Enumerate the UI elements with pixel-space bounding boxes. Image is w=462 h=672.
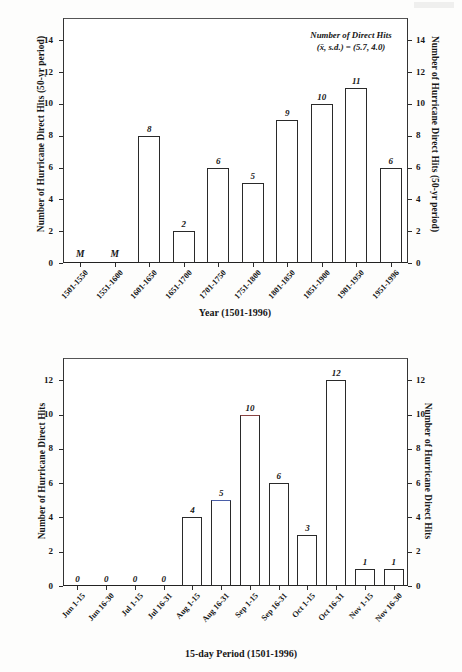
x-tick xyxy=(307,586,308,590)
x-tick xyxy=(279,586,280,590)
y-tick-label-left: 10 xyxy=(31,99,53,108)
y-tick-left xyxy=(59,552,63,553)
y-tick-right xyxy=(408,380,412,381)
x-tick xyxy=(77,586,78,590)
x-tick xyxy=(336,586,337,590)
y-tick-left xyxy=(59,517,63,518)
bar-value-label: 9 xyxy=(270,109,304,118)
y-tick-right xyxy=(408,199,412,200)
bar xyxy=(345,88,367,263)
y-tick-right xyxy=(408,449,412,450)
y-tick-left xyxy=(59,40,63,41)
y-tick-right xyxy=(408,231,412,232)
annotation-line-1: Number of Direct Hits xyxy=(310,30,391,40)
y-tick-left xyxy=(59,380,63,381)
bar xyxy=(207,168,229,263)
plot-area-bottom xyxy=(63,358,408,586)
bar xyxy=(297,535,317,586)
y-tick-label-right: 8 xyxy=(416,131,438,140)
bar-value-label: 2 xyxy=(167,220,201,229)
bar-value-label: 6 xyxy=(262,472,296,481)
missing-data-marker: M xyxy=(63,250,97,260)
y-tick-left xyxy=(59,168,63,169)
bar-value-label: 4 xyxy=(175,506,209,515)
bar xyxy=(269,483,289,586)
y-tick-label-right: 0 xyxy=(416,582,438,591)
bar-value-label: 0 xyxy=(147,575,181,584)
y-tick-left xyxy=(59,136,63,137)
y-tick-label-left: 12 xyxy=(31,68,53,77)
y-tick-label-right: 14 xyxy=(416,36,438,45)
bar xyxy=(138,136,160,263)
bar xyxy=(355,569,375,586)
y-tick-label-right: 10 xyxy=(416,410,438,419)
bar-value-label: 1 xyxy=(377,558,411,567)
bar-value-label: 3 xyxy=(290,524,324,533)
y-tick-label-left: 0 xyxy=(31,582,53,591)
y-tick-label-right: 0 xyxy=(416,259,438,268)
y-tick-label-left: 8 xyxy=(31,131,53,140)
annotation-top: Number of Direct Hits (x̄, s.d.) = (5.7,… xyxy=(286,30,416,53)
x-tick xyxy=(192,586,193,590)
bar xyxy=(211,500,231,586)
y-tick-label-left: 6 xyxy=(31,479,53,488)
bar-value-label: 5 xyxy=(236,172,270,181)
x-tick xyxy=(391,263,392,267)
y-tick-label-left: 2 xyxy=(31,547,53,556)
bar xyxy=(173,231,195,263)
x-tick xyxy=(394,586,395,590)
x-tick xyxy=(356,263,357,267)
y-tick-left xyxy=(59,199,63,200)
x-tick xyxy=(221,586,222,590)
x-tick xyxy=(135,586,136,590)
x-tick-label: Jun 1-15 xyxy=(35,592,88,650)
bar-value-label: 6 xyxy=(374,157,408,166)
x-tick xyxy=(149,263,150,267)
y-tick-label-left: 10 xyxy=(31,410,53,419)
y-tick-label-right: 6 xyxy=(416,163,438,172)
y-tick-label-left: 4 xyxy=(31,195,53,204)
x-tick xyxy=(184,263,185,267)
y-tick-left xyxy=(59,483,63,484)
bar-value-label: 6 xyxy=(201,157,235,166)
x-tick xyxy=(164,586,165,590)
x-tick xyxy=(253,263,254,267)
bar xyxy=(242,183,264,263)
y-tick-right xyxy=(408,415,412,416)
x-tick xyxy=(218,263,219,267)
x-tick xyxy=(287,263,288,267)
y-tick-right xyxy=(408,263,412,264)
bar xyxy=(326,380,346,586)
y-tick-label-right: 10 xyxy=(416,99,438,108)
x-tick xyxy=(250,586,251,590)
y-tick-label-right: 8 xyxy=(416,444,438,453)
bar xyxy=(182,517,202,586)
bar xyxy=(240,415,260,586)
y-tick-label-left: 4 xyxy=(31,513,53,522)
bar-value-label: 10 xyxy=(305,93,339,102)
y-tick-left xyxy=(59,72,63,73)
y-tick-right xyxy=(408,136,412,137)
x-axis-title-bottom: 15-day Period (1501-1996) xyxy=(141,648,341,659)
figure-year-periods: Number of Hurricane Direct Hits (50-yr p… xyxy=(0,0,462,336)
y-tick-right xyxy=(408,483,412,484)
annotation-line-2: (x̄, s.d.) = (5.7, 4.0) xyxy=(286,42,416,54)
y-tick-right xyxy=(408,552,412,553)
bar xyxy=(276,120,298,263)
y-tick-right xyxy=(408,40,412,41)
y-tick-label-left: 12 xyxy=(31,376,53,385)
y-tick-left xyxy=(59,104,63,105)
x-tick xyxy=(365,586,366,590)
y-tick-left xyxy=(59,586,63,587)
y-tick-label-right: 12 xyxy=(416,376,438,385)
y-tick-right xyxy=(408,72,412,73)
bar-value-label: 8 xyxy=(132,125,166,134)
y-tick-label-right: 2 xyxy=(416,227,438,236)
bar-value-label: 11 xyxy=(339,77,373,86)
bar xyxy=(311,104,333,263)
y-tick-label-left: 14 xyxy=(31,36,53,45)
x-tick xyxy=(322,263,323,267)
y-tick-right xyxy=(408,517,412,518)
y-tick-right xyxy=(408,104,412,105)
y-tick-left xyxy=(59,449,63,450)
